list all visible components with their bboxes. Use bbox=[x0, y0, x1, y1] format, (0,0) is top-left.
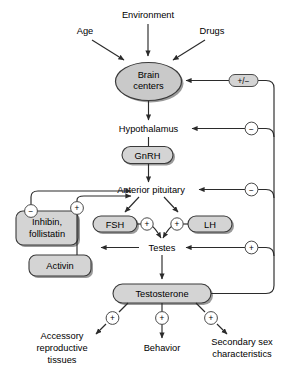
sign-badge-accessory-plus-label: + bbox=[110, 314, 115, 323]
input-label-age: Age bbox=[77, 26, 94, 36]
sign-badge-lh-plus: + bbox=[171, 218, 183, 230]
sign-badge-brain-plusminus-label: +/− bbox=[238, 77, 250, 86]
sign-badge-testes-plus-label: + bbox=[249, 244, 254, 253]
output-label-behavior: Behavior bbox=[144, 343, 181, 353]
sign-badge-inhibin-minus: − bbox=[25, 205, 38, 218]
sign-badge-accessory-plus: + bbox=[106, 312, 119, 325]
input-label-drugs: Drugs bbox=[200, 26, 225, 36]
sign-badge-secondary-plus-label: + bbox=[209, 314, 214, 323]
lh-label: LH bbox=[204, 220, 216, 230]
node-label-anterior-pituitary: Anterior pituitary bbox=[117, 185, 185, 195]
inhibin-label-line2: follistatin bbox=[29, 229, 65, 239]
brain-centers-label-line2: centers bbox=[133, 81, 164, 91]
output-label-secondary-line2: characteristics bbox=[212, 349, 272, 359]
output-label-secondary-line1: Secondary sex bbox=[211, 337, 273, 347]
gnrh-label: GnRH bbox=[135, 151, 161, 161]
sign-badge-hypothalamus-minus-label: − bbox=[249, 125, 254, 134]
activin-label: Activin bbox=[46, 261, 73, 271]
node-label-hypothalamus: Hypothalamus bbox=[119, 124, 179, 134]
node-label-testes: Testes bbox=[149, 243, 176, 253]
sign-badge-fsh-plus: + bbox=[141, 218, 153, 230]
brain-centers-label-line1: Brain bbox=[138, 70, 160, 80]
inhibin-label-line1: Inhibin, bbox=[32, 217, 62, 227]
sign-badge-behavior-plus-label: + bbox=[160, 314, 165, 323]
sign-badge-hypothalamus-minus: − bbox=[245, 122, 258, 135]
sign-badge-testes-plus: + bbox=[245, 241, 258, 254]
fsh-label: FSH bbox=[106, 220, 125, 230]
sign-badge-pituitary-minus: − bbox=[245, 183, 258, 196]
output-label-accessory-line2: reproductive bbox=[36, 343, 87, 353]
output-label-accessory-line1: Accessory bbox=[41, 331, 84, 341]
sign-badge-pituitary-minus-label: − bbox=[249, 186, 254, 195]
sign-badge-brain-plusminus: +/− bbox=[229, 75, 258, 87]
sign-badge-activin-plus-label: + bbox=[75, 204, 80, 213]
sign-badge-activin-plus: + bbox=[71, 202, 84, 215]
testosterone-label: Testosterone bbox=[135, 289, 188, 299]
output-label-accessory-line3: tissues bbox=[48, 355, 77, 365]
sign-badge-secondary-plus: + bbox=[205, 312, 218, 325]
sign-badge-behavior-plus: + bbox=[156, 312, 169, 325]
hpg-axis-diagram: Environment Age Drugs Brain centers Hypo… bbox=[0, 0, 297, 371]
input-label-environment: Environment bbox=[122, 10, 175, 20]
sign-badge-lh-plus-label: + bbox=[175, 220, 180, 229]
sign-badge-fsh-plus-label: + bbox=[145, 220, 150, 229]
sign-badge-inhibin-minus-label: − bbox=[29, 207, 34, 216]
